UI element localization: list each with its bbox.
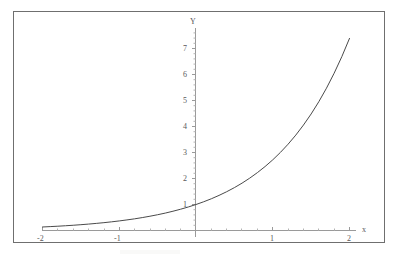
x-tick-label-1: 1 xyxy=(270,234,274,243)
x-tick-label-minus-1: -1 xyxy=(114,234,121,243)
x-axis-title: x xyxy=(362,225,366,234)
y-tick-label-7: 7 xyxy=(183,44,187,53)
y-axis-title: Y xyxy=(190,17,196,26)
plot-frame xyxy=(13,11,385,243)
y-tick-label-1: 1 xyxy=(183,200,187,209)
y-tick-label-4: 4 xyxy=(183,122,187,131)
x-tick-label-2: 2 xyxy=(347,234,351,243)
scan-artifact xyxy=(120,250,180,254)
y-tick-label-3: 3 xyxy=(183,148,187,157)
x-tick-label-minus-2: -2 xyxy=(37,234,44,243)
y-tick-label-5: 5 xyxy=(183,96,187,105)
y-tick-label-6: 6 xyxy=(183,70,187,79)
y-tick-label-2: 2 xyxy=(183,174,187,183)
figure-canvas: Y x 7 6 5 4 3 2 1 -2 -1 1 2 xyxy=(0,0,398,255)
